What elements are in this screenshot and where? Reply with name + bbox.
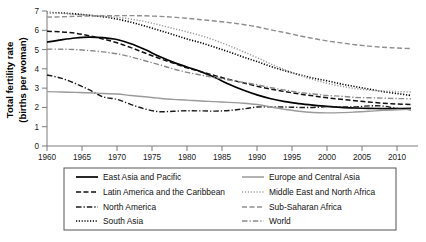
x-tick-label: 1975 — [143, 153, 162, 162]
x-tick-label: 1990 — [248, 153, 267, 162]
y-tick-label: 1 — [34, 123, 39, 132]
x-tick-label: 1980 — [178, 153, 197, 162]
x-tick-label: 1970 — [108, 153, 127, 162]
y-tick-label: 6 — [34, 26, 39, 35]
y-tick-label: 5 — [34, 46, 39, 55]
legend-label: Sub-Saharan Africa — [269, 202, 342, 212]
x-tick-label: 2000 — [318, 153, 337, 162]
y-tick-label: 2 — [34, 103, 39, 112]
legend-label: World — [269, 216, 291, 226]
legend: East Asia and PacificLatin America and t… — [64, 168, 396, 230]
y-tick-label: 4 — [34, 65, 39, 74]
y-tick-label: 3 — [34, 84, 39, 93]
legend-label: East Asia and Pacific — [103, 172, 181, 182]
x-tick-label: 1965 — [73, 153, 92, 162]
legend-label: Latin America and the Caribbean — [103, 187, 225, 197]
x-tick-label: 1995 — [283, 153, 302, 162]
x-tick-label: 2005 — [353, 153, 372, 162]
y-tick-label: 7 — [34, 7, 39, 16]
legend-label: South Asia — [103, 216, 143, 226]
x-tick-label: 1985 — [213, 153, 232, 162]
x-tick-label: 1960 — [38, 153, 57, 162]
legend-label: Europe and Central Asia — [269, 172, 360, 182]
y-axis-title-line2: (births per woman) — [17, 37, 28, 123]
y-tick-label: 0 — [34, 142, 39, 151]
x-tick-label: 2010 — [388, 153, 407, 162]
legend-label: Middle East and North Africa — [269, 187, 375, 197]
fertility-rate-line-chart: Total fertility rate (births per woman) … — [0, 0, 426, 242]
legend-label: North America — [103, 202, 156, 212]
y-axis-title-line1: Total fertility rate — [4, 42, 15, 118]
